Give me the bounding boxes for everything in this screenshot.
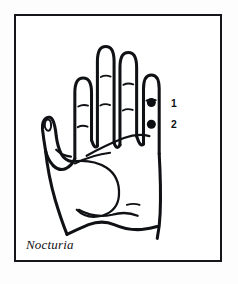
point-dot-2[interactable] <box>147 120 156 129</box>
point-marker-2[interactable]: 2 <box>147 119 177 130</box>
finger-little <box>144 75 160 154</box>
point-marker-1[interactable]: 1 <box>147 98 177 109</box>
figure-root: 1 2 Nocturia <box>0 0 238 284</box>
finger-index <box>75 78 92 159</box>
finger-middle <box>97 47 114 146</box>
hand-diagram: 1 2 <box>16 16 220 260</box>
point-label-1: 1 <box>171 98 177 109</box>
point-dot-1[interactable] <box>147 98 156 107</box>
point-label-2: 2 <box>171 119 177 130</box>
finger-ring <box>120 52 137 144</box>
figure-frame: 1 2 Nocturia <box>14 14 222 262</box>
palm-creases <box>72 135 149 217</box>
figure-caption: Nocturia <box>26 237 74 252</box>
